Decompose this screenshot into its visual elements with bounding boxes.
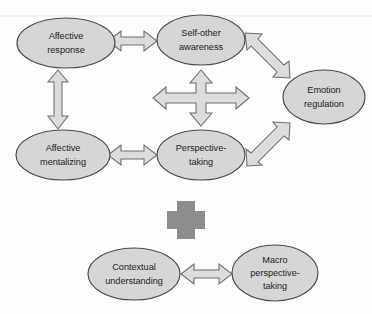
node-label-line2: awareness [179,42,223,52]
node-label-line1: Contextual [112,262,155,272]
node-emotion-regulation[interactable]: Emotion regulation [283,70,365,124]
node-perspective-taking[interactable]: Perspective- taking [157,130,245,180]
node-macro-perspective-taking[interactable]: Macro perspective- taking [232,245,318,301]
node-label-line2: understanding [105,276,163,286]
node-label-line2: mentalizing [40,157,86,167]
node-ellipse [16,130,110,180]
node-affective-response[interactable]: Affective response [17,18,115,68]
node-label-line1: Emotion [307,85,340,95]
node-label-line2: taking [189,157,213,167]
node-contextual-understanding[interactable]: Contextual understanding [88,248,180,300]
connector-affective-mentalizing-perspective-taking [108,145,157,165]
connector-central-cross [153,70,249,126]
node-label-line2: response [47,45,84,55]
connector-perspective-taking-emotion-regulation [246,122,290,166]
node-ellipse [17,18,115,68]
node-label-line1: Macro [262,255,287,265]
diagram-canvas: Affective response Self-other awareness … [0,0,372,314]
connector-affective-response-affective-mentalizing [48,70,68,129]
node-label-line1: Affective [46,143,81,153]
node-affective-mentalizing[interactable]: Affective mentalizing [16,130,110,180]
node-label-line1: Perspective- [176,143,226,153]
node-label-line2: regulation [304,99,344,109]
node-label-line1: Affective [49,31,84,41]
node-ellipse [283,70,365,124]
node-ellipse [157,15,245,65]
connector-contextual-understanding-macro-perspective-taking [181,264,232,284]
node-label-line3: taking [263,281,287,291]
node-ellipse [157,130,245,180]
node-label-line2: perspective- [250,268,299,278]
node-self-other-awareness[interactable]: Self-other awareness [157,15,245,65]
node-label-line1: Self-other [181,28,220,38]
plus-operator [167,201,205,239]
node-ellipse [88,248,180,300]
diagram-svg: Affective response Self-other awareness … [0,0,372,314]
connector-self-other-awareness-emotion-regulation [245,33,290,78]
